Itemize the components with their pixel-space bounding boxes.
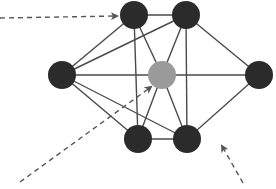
arrow-to-edge-e-g xyxy=(222,146,243,183)
edge-a-f xyxy=(134,15,138,139)
node-a xyxy=(120,1,148,29)
edge-c-f xyxy=(62,75,138,139)
arrow-to-top-left-node xyxy=(0,16,117,18)
center-node-d xyxy=(148,61,176,89)
nodes-group xyxy=(48,1,273,153)
node-e xyxy=(245,61,273,89)
edge-b-g xyxy=(186,15,187,139)
node-f xyxy=(124,125,152,153)
arrows-group xyxy=(0,16,243,183)
edge-e-g xyxy=(187,75,259,139)
node-c xyxy=(48,61,76,89)
edge-b-e xyxy=(186,15,259,75)
node-b xyxy=(172,1,200,29)
network-diagram xyxy=(0,0,276,189)
node-g xyxy=(173,125,201,153)
